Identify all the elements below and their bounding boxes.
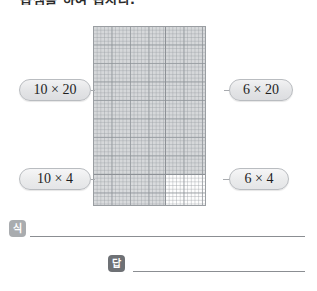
- grid-quadrant-bottom-right: [165, 174, 206, 206]
- area-model-grid: [93, 26, 206, 206]
- result-answer-line[interactable]: [133, 271, 305, 272]
- connector-line-bottom-left: [91, 179, 95, 180]
- page-title-strip: 곱셈을 하여 봅시다.: [0, 0, 317, 5]
- label-pill-top-left: 10 × 20: [19, 79, 91, 101]
- equation-badge: 식: [9, 220, 26, 237]
- page-title: 곱셈을 하여 봅시다.: [20, 0, 136, 5]
- grid-quadrant-bottom-left: [93, 174, 165, 206]
- result-badge: 답: [108, 255, 125, 272]
- label-pill-bottom-left: 10 × 4: [19, 168, 91, 190]
- grid-quadrant-top-left: [93, 26, 165, 174]
- label-pill-bottom-right: 6 × 4: [229, 168, 289, 190]
- equation-answer-line[interactable]: [30, 236, 305, 237]
- connector-line-top-left: [91, 90, 95, 91]
- label-pill-top-right: 6 × 20: [229, 79, 293, 101]
- grid-quadrant-top-right: [165, 26, 206, 174]
